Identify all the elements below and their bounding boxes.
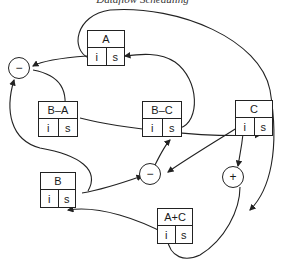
minus-operator-middle: − [139, 163, 161, 185]
node-a: A is [87, 30, 125, 66]
node-ac-port-s: s [176, 226, 193, 243]
node-b-minus-c: B–C is [142, 101, 182, 137]
node-a-port-i: i [88, 48, 107, 65]
node-c-port-i: i [236, 118, 255, 135]
node-ba-label: B–A [39, 102, 77, 119]
node-b-minus-a: B–A is [38, 101, 78, 137]
node-ba-port-s: s [59, 119, 78, 136]
node-a-port-s: s [107, 48, 125, 65]
node-b-label: B [41, 173, 75, 190]
node-a-label: A [88, 31, 124, 48]
node-c: C is [235, 100, 273, 136]
node-ac-label: A+C [158, 209, 192, 226]
edge-a-to-minus-top [33, 56, 87, 66]
node-ba-port-i: i [39, 119, 59, 136]
node-b-port-s: s [59, 190, 76, 207]
node-a-plus-c: A+C is [157, 208, 193, 244]
edge-ac-to-b [68, 209, 168, 235]
plus-operator: + [222, 166, 244, 188]
node-c-label: C [236, 101, 272, 118]
node-ac-port-i: i [158, 226, 176, 243]
node-bc-port-i: i [143, 119, 163, 136]
node-b-port-i: i [41, 190, 59, 207]
node-b: B is [40, 172, 76, 208]
node-bc-label: B–C [143, 102, 181, 119]
node-bc-port-s: s [163, 119, 182, 136]
edge-minus-mid-to-bc [155, 140, 170, 165]
node-c-port-s: s [255, 118, 273, 135]
minus-operator-top: − [8, 57, 30, 79]
